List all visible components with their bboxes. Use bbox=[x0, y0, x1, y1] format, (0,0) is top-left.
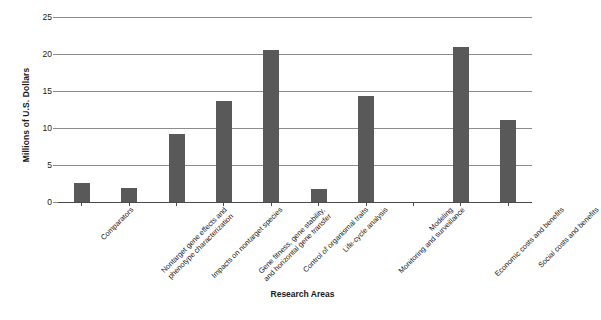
plot-area: 0510152025 bbox=[58, 17, 532, 202]
x-axis-category-labels: ComparatorsNontarget gene effects andphe… bbox=[58, 206, 532, 296]
x-axis-label-line: Monitoring and surveillance bbox=[397, 206, 467, 276]
x-axis-label: Monitoring and surveillance bbox=[397, 206, 467, 276]
y-tick-label-20: 20 bbox=[43, 49, 52, 59]
bar bbox=[169, 134, 185, 202]
y-axis-title: Millions of U.S. Dollars bbox=[21, 45, 31, 185]
y-tick-label-10: 10 bbox=[43, 123, 52, 133]
x-axis-title: Research Areas bbox=[0, 289, 545, 299]
bar bbox=[311, 189, 327, 202]
bar bbox=[500, 120, 516, 202]
x-axis-label-line: Comparators bbox=[99, 206, 135, 242]
bar bbox=[121, 188, 137, 202]
y-tick-label-15: 15 bbox=[43, 86, 52, 96]
y-tick-label-0: 0 bbox=[47, 197, 52, 207]
bars-layer bbox=[58, 17, 532, 202]
x-axis-label: Comparators bbox=[99, 206, 135, 242]
bar bbox=[358, 96, 374, 202]
x-axis-label: Social costs and benefits bbox=[537, 206, 601, 270]
x-axis-label-line: Social costs and benefits bbox=[537, 206, 601, 270]
bar bbox=[74, 183, 90, 202]
bar bbox=[216, 101, 232, 202]
y-tick-label-25: 25 bbox=[43, 12, 52, 22]
bar bbox=[453, 47, 469, 202]
bar bbox=[263, 50, 279, 202]
y-tick-label-5: 5 bbox=[47, 160, 52, 170]
